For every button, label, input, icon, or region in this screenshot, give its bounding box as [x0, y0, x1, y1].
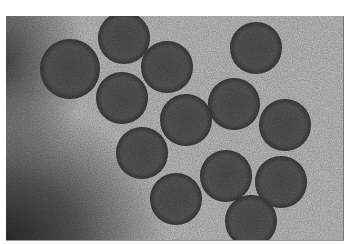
micrograph [6, 16, 344, 241]
grain-texture [6, 16, 343, 240]
